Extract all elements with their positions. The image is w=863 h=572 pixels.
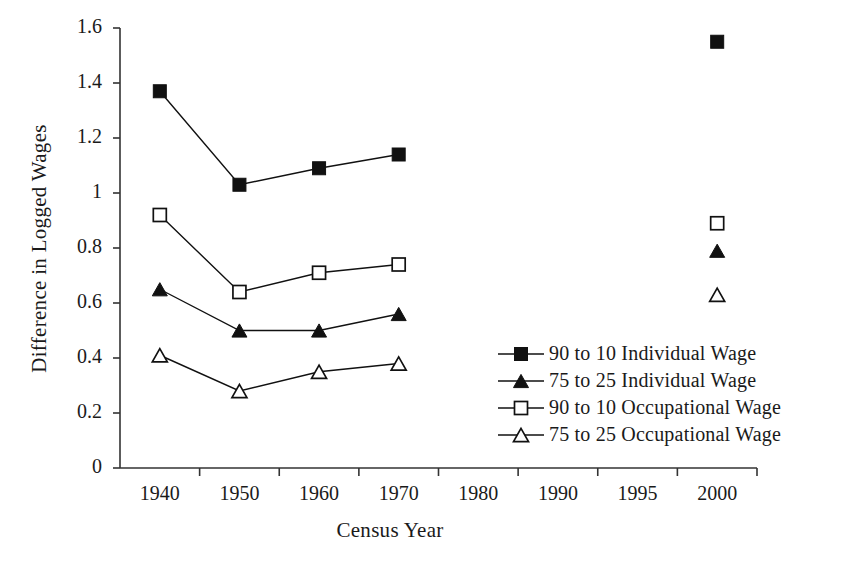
- legend-label: 90 to 10 Occupational Wage: [545, 396, 781, 419]
- data-point-filled-triangle: [710, 244, 725, 257]
- y-tick-label: 0.2: [42, 400, 102, 423]
- y-tick-label: 0.6: [42, 290, 102, 313]
- legend-marker-open-square: [497, 397, 545, 419]
- y-tick-label: 1.6: [42, 15, 102, 38]
- data-point-filled-square: [392, 148, 405, 161]
- y-tick-label: 0: [42, 455, 102, 478]
- x-tick-label: 1995: [598, 482, 678, 505]
- data-point-filled-square: [711, 35, 724, 48]
- x-axis-title: Census Year: [0, 518, 780, 543]
- y-axis-ticks: [113, 28, 120, 468]
- legend-label: 90 to 10 Individual Wage: [545, 342, 756, 365]
- chart-legend: 90 to 10 Individual Wage75 to 25 Individ…: [497, 340, 857, 448]
- series-2: [153, 209, 723, 299]
- data-point-open-square: [711, 217, 724, 230]
- legend-marker-filled-triangle: [497, 370, 545, 392]
- x-tick-label: 1960: [279, 482, 359, 505]
- y-tick-label: 0.8: [42, 235, 102, 258]
- x-tick-label: 1950: [199, 482, 279, 505]
- data-point-open-triangle: [232, 384, 247, 397]
- legend-item: 90 to 10 Occupational Wage: [497, 394, 857, 421]
- data-point-open-square: [392, 258, 405, 271]
- legend-item: 90 to 10 Individual Wage: [497, 340, 857, 367]
- data-point-filled-triangle: [391, 307, 406, 320]
- x-tick-label: 1990: [518, 482, 598, 505]
- data-point-filled-triangle: [152, 283, 167, 296]
- legend-item: 75 to 25 Individual Wage: [497, 367, 857, 394]
- data-point-open-square: [515, 401, 528, 414]
- x-tick-label: 2000: [677, 482, 757, 505]
- series-0: [153, 35, 723, 191]
- x-tick-label: 1940: [120, 482, 200, 505]
- data-point-filled-square: [313, 162, 326, 175]
- legend-label: 75 to 25 Individual Wage: [545, 369, 756, 392]
- data-point-open-triangle: [710, 288, 725, 301]
- y-tick-label: 1: [42, 180, 102, 203]
- data-point-open-square: [313, 266, 326, 279]
- data-point-open-square: [233, 286, 246, 299]
- y-tick-label: 1.4: [42, 70, 102, 93]
- data-point-filled-square: [233, 178, 246, 191]
- x-axis-ticks: [200, 468, 757, 476]
- legend-item: 75 to 25 Occupational Wage: [497, 421, 857, 448]
- x-tick-label: 1970: [359, 482, 439, 505]
- data-point-open-triangle: [152, 349, 167, 362]
- data-point-open-square: [153, 209, 166, 222]
- legend-label: 75 to 25 Occupational Wage: [545, 423, 781, 446]
- data-point-filled-square: [515, 347, 528, 360]
- legend-marker-filled-square: [497, 343, 545, 365]
- data-point-filled-square: [153, 85, 166, 98]
- x-tick-label: 1980: [438, 482, 518, 505]
- chart-figure: Difference in Logged Wages Census Year 0…: [0, 0, 863, 572]
- y-tick-label: 0.4: [42, 345, 102, 368]
- y-tick-label: 1.2: [42, 125, 102, 148]
- legend-marker-open-triangle: [497, 424, 545, 446]
